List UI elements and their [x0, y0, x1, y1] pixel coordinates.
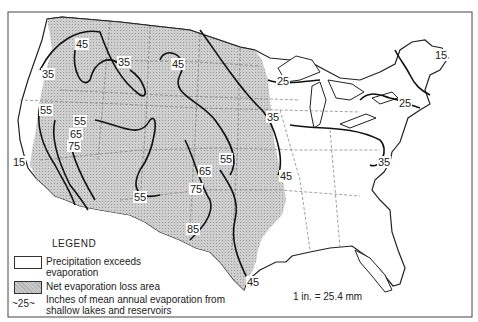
- contour-label: 45: [171, 58, 185, 70]
- scale-note: 1 in. = 25.4 mm: [293, 291, 362, 302]
- contour-label: 35: [377, 156, 391, 168]
- white-swatch-icon: [14, 256, 42, 269]
- contour-label: 45: [75, 38, 89, 50]
- legend-title: LEGEND: [52, 238, 96, 249]
- contour-label: 65: [198, 165, 212, 177]
- contour-label: 25: [276, 75, 290, 87]
- net-loss-area: [30, 17, 286, 290]
- contour-label: 55: [39, 104, 53, 116]
- contour-label: 55: [73, 115, 87, 127]
- contour-label: 75: [189, 183, 203, 195]
- legend-label: Precipitation exceeds evaporation: [46, 256, 166, 278]
- contour-label: 45: [279, 170, 293, 182]
- contour-label: 75: [67, 140, 81, 152]
- gray-swatch-icon: [14, 281, 42, 294]
- legend-label: Inches of mean annual evaporation from s…: [46, 294, 236, 316]
- contour-label: 15: [434, 49, 448, 61]
- legend-label: Net evaporation loss area: [46, 281, 236, 292]
- contour-label: 25: [398, 97, 412, 109]
- contour-label: 85: [186, 223, 200, 235]
- contour-symbol-icon: ~25~: [12, 298, 35, 309]
- contour-label: 15: [12, 156, 26, 168]
- contour-label: 55: [133, 191, 147, 203]
- contour-label: 55: [219, 153, 233, 165]
- contour-label: 35: [266, 111, 280, 123]
- contour-label: 65: [69, 128, 83, 140]
- contour-label: 35: [41, 68, 55, 80]
- contour-label: 45: [246, 276, 260, 288]
- contour-label: 35: [117, 56, 131, 68]
